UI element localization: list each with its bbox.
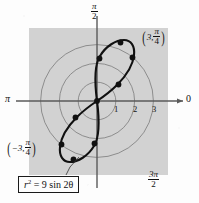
polar-graph-figure: 1 2 3 xyxy=(0,0,199,203)
point-label-1-theta-den: 4 xyxy=(153,37,160,47)
axis-label-3pi-over-2: 3π 2 xyxy=(148,170,159,190)
axis-label-pi: π xyxy=(5,94,10,104)
axis-label-top-denominator: 2 xyxy=(91,12,98,22)
point-label-3-pi-over-4: ( 3 , π 4 ) xyxy=(141,27,166,47)
equation-rhs: = 9 sin 2θ xyxy=(31,179,73,190)
paren-open-2: ( xyxy=(7,140,10,157)
paren-close-2: ) xyxy=(32,140,35,157)
axis-label-bottom-denominator: 2 xyxy=(148,180,159,190)
svg-text:2: 2 xyxy=(133,104,137,114)
point-label-2-r: −3 xyxy=(12,144,23,153)
equation-box: r2 = 9 sin 2θ xyxy=(18,176,79,193)
svg-text:3: 3 xyxy=(152,104,156,114)
axis-label-pi-over-2: π 2 xyxy=(91,2,98,22)
point-label-2-theta-den: 4 xyxy=(25,148,32,158)
point-label-minus3-pi-over-4: ( −3 , π 4 ) xyxy=(6,138,37,158)
axis-label-zero: 0 xyxy=(186,94,191,104)
svg-text:1: 1 xyxy=(114,104,118,114)
paren-open-1: ( xyxy=(142,29,145,46)
paren-close-1: ) xyxy=(161,29,164,46)
